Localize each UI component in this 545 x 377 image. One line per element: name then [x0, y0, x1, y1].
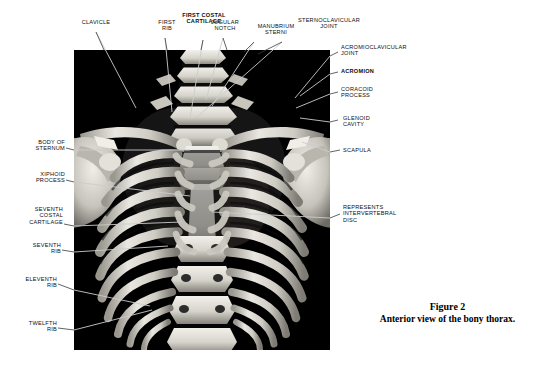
label-xiphoid-process: XIPHOID PROCESS [5, 171, 65, 184]
label-body-of-sternum: BODY OF STERNUM [5, 139, 65, 152]
label-scapula: SCAPULA [343, 147, 403, 153]
label-seventh-costal-cartilage: SEVENTH COSTAL CARTILAGE [3, 206, 63, 225]
figure-page: CLAVICLE FIRST RIB FIRST COSTAL CARTILAG… [0, 0, 545, 377]
figure-caption: Figure 2 Anterior view of the bony thora… [350, 300, 545, 326]
thorax-photograph [74, 50, 330, 350]
figure-caption-text: Anterior view of the bony thorax. [350, 313, 545, 326]
label-sternoclavicular-joint: STERNOCLAVICULAR JOINT [288, 17, 370, 30]
label-glenoid-cavity: GLENOID CAVITY [343, 115, 403, 128]
label-intervertebral-disc: REPRESENTS INTERVERTEBRAL DISC [343, 204, 429, 223]
label-coracoid-process: CORACOID PROCESS [341, 86, 411, 99]
label-jugular-notch: JUGULAR NOTCH [200, 19, 250, 32]
label-seventh-rib: SEVENTH RIB [3, 242, 61, 255]
figure-number: Figure 2 [350, 300, 545, 313]
label-acromioclavicular-joint: ACROMIOCLAVICULAR JOINT [341, 44, 441, 57]
label-clavicle: CLAVICLE [62, 19, 130, 25]
label-twelfth-rib: TWELFTH RIB [1, 320, 57, 333]
label-acromion: ACROMION [341, 68, 421, 74]
label-eleventh-rib: ELEVENTH RIB [1, 276, 57, 289]
skeleton-illustration [74, 50, 330, 350]
